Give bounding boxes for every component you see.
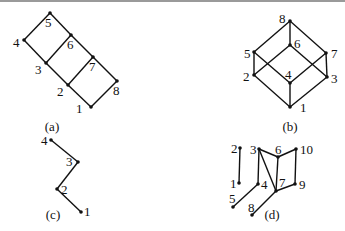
node-1 <box>288 105 292 109</box>
node-label: 2 <box>243 69 250 84</box>
node-label: 10 <box>300 142 313 157</box>
node-label: 7 <box>279 175 286 190</box>
node-label: 6 <box>67 37 74 52</box>
edge-3-4 <box>258 149 259 184</box>
node-label: 8 <box>279 11 286 26</box>
edge-7-4 <box>290 53 326 83</box>
node-6 <box>288 43 292 47</box>
node-label: 5 <box>45 15 52 30</box>
edge-6-7 <box>276 157 278 191</box>
caption-a: (a) <box>45 119 59 134</box>
node-label: 4 <box>261 177 268 192</box>
node-label: 6 <box>275 142 282 157</box>
node-label: 3 <box>250 142 257 157</box>
graph-c: 1234(c) <box>41 133 91 222</box>
node-label: 4 <box>41 133 48 148</box>
node-1 <box>79 210 83 214</box>
node-2 <box>238 146 242 150</box>
caption-c: (c) <box>46 207 60 222</box>
node-7 <box>274 189 278 193</box>
edge-1-2 <box>239 148 240 183</box>
node-label: 3 <box>66 154 73 169</box>
node-2 <box>252 73 256 77</box>
node-label: 4 <box>13 35 20 50</box>
edge-7-3 <box>326 53 327 77</box>
node-label: 6 <box>294 36 301 51</box>
caption-b: (b) <box>282 119 297 134</box>
node-4 <box>256 182 260 186</box>
edge-6-7 <box>71 35 93 57</box>
node-label: 4 <box>285 67 292 82</box>
edge-10-9 <box>295 149 296 184</box>
node-7 <box>324 51 328 55</box>
node-label: 2 <box>231 141 238 156</box>
node-label: 5 <box>229 191 236 206</box>
graph-a: 12345678(a) <box>13 11 120 134</box>
node-3 <box>257 147 261 151</box>
node-5 <box>252 50 256 54</box>
node-label: 1 <box>230 176 237 191</box>
node-3 <box>325 75 329 79</box>
edge-7-8 <box>93 57 117 81</box>
node-label: 2 <box>57 84 64 99</box>
node-label: 2 <box>61 182 68 197</box>
node-10 <box>294 147 298 151</box>
node-3 <box>76 160 80 164</box>
node-1 <box>89 105 93 109</box>
node-8 <box>288 19 292 23</box>
node-label: 5 <box>244 46 251 61</box>
node-label: 8 <box>248 200 255 215</box>
node-4 <box>49 138 53 142</box>
node-1 <box>237 181 241 185</box>
node-label: 3 <box>35 62 42 77</box>
graph-diagrams: 12345678(a)12345678(b)1234(c)12345678910… <box>0 0 345 231</box>
node-label: 3 <box>331 71 338 86</box>
node-label: 7 <box>89 59 96 74</box>
node-2 <box>66 83 70 87</box>
node-label: 9 <box>299 177 306 192</box>
caption-d: (d) <box>264 207 279 222</box>
graph-b: 12345678(b) <box>243 11 338 134</box>
node-label: 1 <box>76 101 83 116</box>
edge-3-1 <box>290 77 327 107</box>
node-label: 1 <box>84 204 91 219</box>
node-label: 1 <box>300 100 307 115</box>
node-3 <box>44 61 48 65</box>
node-label: 7 <box>331 46 338 61</box>
node-4 <box>22 38 26 42</box>
edge-3-2 <box>46 63 68 85</box>
node-label: 8 <box>113 83 120 98</box>
graph-d: 12345678910(d) <box>229 141 313 222</box>
edge-4-3 <box>51 140 78 162</box>
node-9 <box>293 182 297 186</box>
node-2 <box>55 187 59 191</box>
edge-5-6 <box>50 13 71 35</box>
edge-4-3 <box>24 40 46 63</box>
